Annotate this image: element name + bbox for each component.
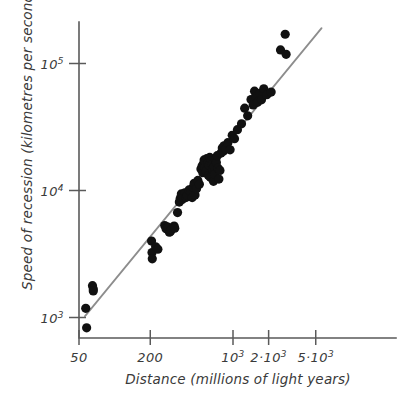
x-tick-label-2: 103 xyxy=(221,349,244,365)
data-point xyxy=(89,286,98,295)
y-tick-label-1: 104 xyxy=(41,183,64,199)
chart-canvas: 103104105 502001032·1035·103 Speed of re… xyxy=(0,0,406,403)
data-point xyxy=(281,30,290,39)
data-point xyxy=(230,134,239,143)
data-point xyxy=(237,119,246,128)
hubble-diagram-figure: 103104105 502001032·1035·103 Speed of re… xyxy=(0,0,406,403)
x-tick-label-3: 2·103 xyxy=(250,349,287,365)
x-tick-label-0: 50 xyxy=(70,350,87,365)
data-points xyxy=(81,30,291,333)
x-tick-label-1: 200 xyxy=(137,350,163,365)
data-point xyxy=(225,145,234,154)
y-axis-title: Speed of recession (kilometres per secon… xyxy=(19,0,35,290)
x-axis-title: Distance (millions of light years) xyxy=(125,371,351,387)
data-point xyxy=(243,111,252,120)
x-axis-tick-labels: 502001032·1035·103 xyxy=(70,349,334,365)
y-tick-label-0: 103 xyxy=(41,310,64,326)
data-point xyxy=(82,323,91,332)
y-tick-label-2: 105 xyxy=(41,56,64,72)
data-point xyxy=(282,50,291,59)
data-point xyxy=(195,180,204,189)
y-axis-ticks xyxy=(69,64,86,318)
data-point xyxy=(81,304,90,313)
x-tick-label-4: 5·103 xyxy=(297,349,334,365)
data-point xyxy=(170,224,179,233)
data-point xyxy=(214,174,223,183)
data-point xyxy=(173,208,182,217)
data-point xyxy=(153,245,162,254)
y-axis-tick-labels: 103104105 xyxy=(41,56,64,326)
data-point xyxy=(267,87,276,96)
data-point xyxy=(215,166,224,175)
data-point xyxy=(148,254,157,263)
axis-lines xyxy=(79,22,396,338)
axes xyxy=(79,22,396,338)
